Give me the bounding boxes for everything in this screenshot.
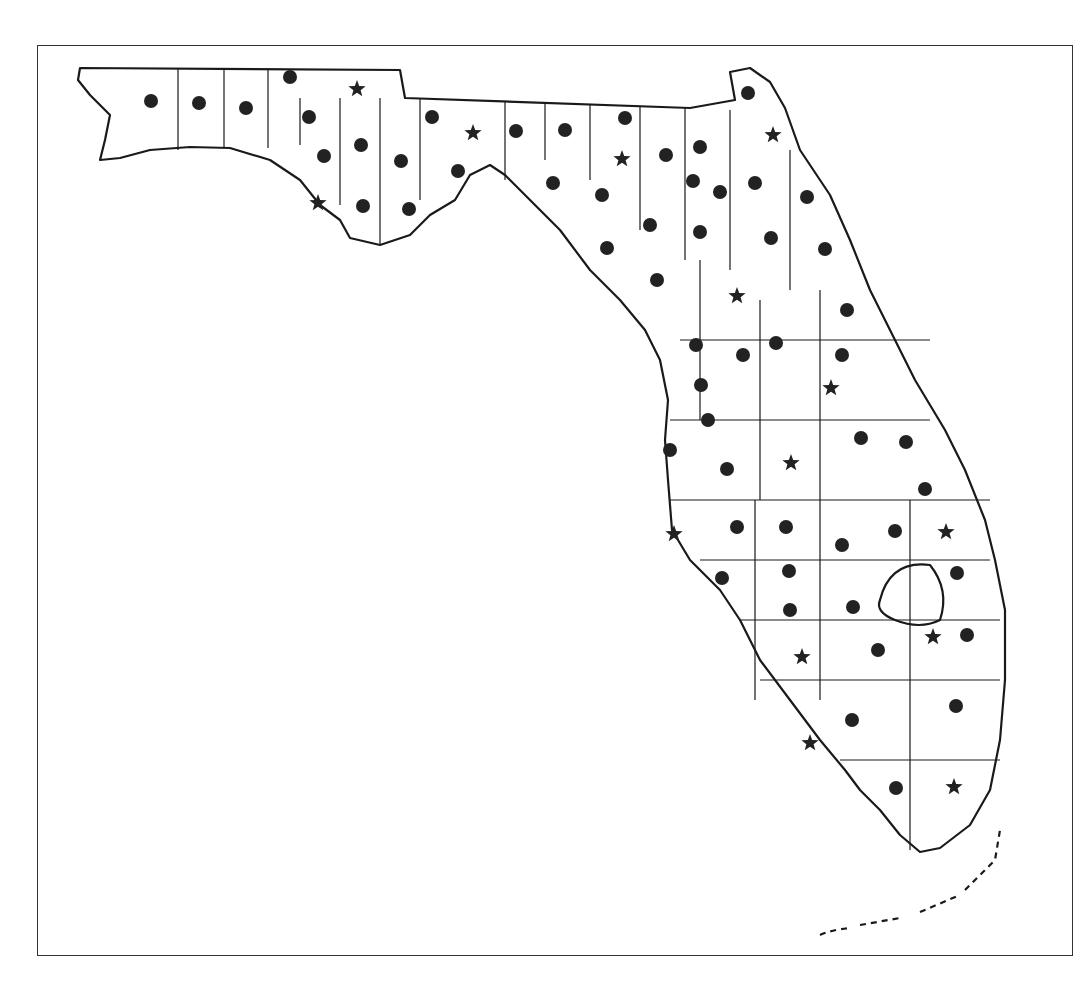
county-markers	[144, 70, 974, 795]
dot-marker	[356, 199, 370, 213]
dot-marker	[354, 138, 368, 152]
dot-marker	[686, 174, 700, 188]
dot-marker	[283, 70, 297, 84]
star-marker	[793, 648, 810, 664]
star-marker	[728, 287, 745, 303]
county-lines	[178, 68, 1000, 850]
dot-marker	[600, 241, 614, 255]
star-marker	[822, 379, 839, 395]
dot-marker	[694, 378, 708, 392]
dot-marker	[618, 111, 632, 125]
dot-marker	[302, 110, 316, 124]
dot-marker	[800, 190, 814, 204]
dot-marker	[693, 225, 707, 239]
dot-marker	[783, 603, 797, 617]
star-marker	[665, 525, 682, 541]
dot-marker	[818, 242, 832, 256]
dot-marker	[402, 202, 416, 216]
dot-marker	[558, 123, 572, 137]
dot-marker	[659, 148, 673, 162]
lake-okeechobee	[879, 564, 943, 625]
dot-marker	[546, 176, 560, 190]
dot-marker	[960, 628, 974, 642]
florida-map	[0, 0, 1089, 984]
dot-marker	[899, 435, 913, 449]
dot-marker	[846, 600, 860, 614]
dot-marker	[451, 164, 465, 178]
dot-marker	[239, 101, 253, 115]
dot-marker	[871, 643, 885, 657]
star-marker	[782, 454, 799, 470]
star-marker	[464, 124, 481, 140]
dot-marker	[835, 538, 849, 552]
dot-marker	[845, 713, 859, 727]
dot-marker	[144, 94, 158, 108]
dot-marker	[748, 176, 762, 190]
dot-marker	[643, 218, 657, 232]
dot-marker	[713, 185, 727, 199]
dot-marker	[918, 482, 932, 496]
dot-marker	[736, 348, 750, 362]
dot-marker	[840, 303, 854, 317]
dot-marker	[693, 140, 707, 154]
dot-marker	[949, 699, 963, 713]
dot-marker	[650, 273, 664, 287]
dot-marker	[741, 86, 755, 100]
star-marker	[348, 80, 365, 96]
dot-marker	[509, 124, 523, 138]
dot-marker	[715, 571, 729, 585]
dot-marker	[950, 566, 964, 580]
dot-marker	[689, 338, 703, 352]
dot-marker	[779, 520, 793, 534]
star-marker	[937, 523, 954, 539]
state-outline	[78, 68, 1005, 935]
star-marker	[613, 150, 630, 166]
dot-marker	[317, 149, 331, 163]
dot-marker	[192, 96, 206, 110]
dot-marker	[394, 154, 408, 168]
dot-marker	[769, 336, 783, 350]
dot-marker	[782, 564, 796, 578]
dot-marker	[835, 348, 849, 362]
star-marker	[764, 126, 781, 142]
star-marker	[924, 628, 941, 644]
dot-marker	[720, 462, 734, 476]
dot-marker	[730, 520, 744, 534]
dot-marker	[701, 413, 715, 427]
star-marker	[945, 778, 962, 794]
dot-marker	[764, 231, 778, 245]
dot-marker	[889, 781, 903, 795]
dot-marker	[425, 110, 439, 124]
dot-marker	[595, 188, 609, 202]
dot-marker	[888, 524, 902, 538]
dot-marker	[854, 431, 868, 445]
dot-marker	[663, 443, 677, 457]
